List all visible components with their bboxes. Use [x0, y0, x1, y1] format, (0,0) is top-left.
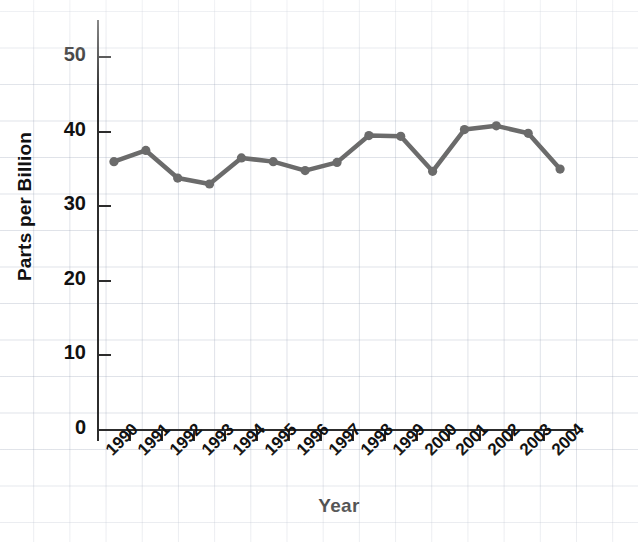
- chart-figure: Parts per Billion 01020304050 1990199119…: [0, 0, 638, 542]
- data-point: [492, 121, 501, 130]
- y-tick-label: 10: [24, 341, 86, 364]
- y-tick-label: 20: [24, 267, 86, 290]
- data-point: [109, 157, 118, 166]
- data-series-svg: [98, 20, 576, 430]
- y-tick-label: 50: [24, 43, 86, 66]
- data-point: [364, 131, 373, 140]
- data-point: [141, 146, 150, 155]
- data-point: [460, 125, 469, 134]
- data-point: [237, 153, 246, 162]
- data-point: [269, 157, 278, 166]
- data-point: [205, 179, 214, 188]
- x-tick: [97, 430, 99, 441]
- data-point: [301, 166, 310, 175]
- y-tick-label: 40: [24, 118, 86, 141]
- y-tick-label: 30: [24, 192, 86, 215]
- data-point: [555, 164, 564, 173]
- data-point: [173, 173, 182, 182]
- data-point: [524, 129, 533, 138]
- plot-area: 01020304050 1990199119921993199419951996…: [98, 20, 576, 430]
- x-axis-title: Year: [0, 495, 638, 517]
- series-markers: [109, 121, 564, 188]
- data-point: [332, 158, 341, 167]
- y-tick-label: 0: [24, 416, 86, 439]
- data-point: [396, 132, 405, 141]
- data-point: [428, 167, 437, 176]
